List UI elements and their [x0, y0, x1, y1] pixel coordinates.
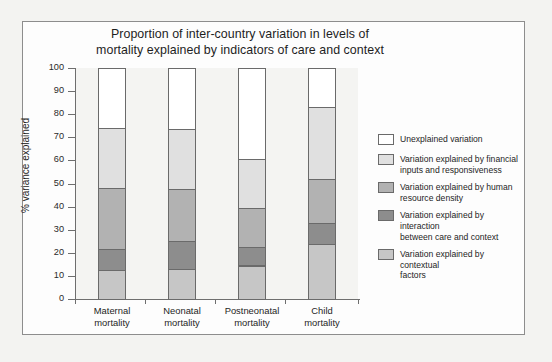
legend-item-label-line: resource density	[400, 193, 523, 204]
y-axis-title: % variance explained	[20, 96, 31, 236]
bar-segment[interactable]	[238, 68, 266, 160]
legend-item-label: Unexplained variation	[400, 134, 523, 145]
legend-item-label: Variation explained by financialinputs a…	[400, 154, 523, 175]
chart-title-line-2: mortality explained by indicators of car…	[40, 43, 440, 59]
bar-stack[interactable]	[98, 68, 126, 299]
y-axis-tick-mark	[68, 68, 76, 69]
x-axis-tick-mark	[145, 299, 146, 304]
legend-item-label: Variation explained by humanresource den…	[400, 182, 523, 203]
legend-item[interactable]: Variation explained by interactionbetwee…	[378, 210, 523, 242]
bar-segment[interactable]	[308, 179, 336, 224]
y-axis-tick-label: 20	[36, 247, 64, 257]
bar-segment[interactable]	[238, 159, 266, 209]
legend-item[interactable]: Variation explained by financialinputs a…	[378, 154, 523, 175]
bar-segment[interactable]	[98, 270, 126, 300]
y-axis-tick-mark	[68, 230, 76, 231]
legend-item-label-line: inputs and responsiveness	[400, 165, 523, 176]
figure-root: Proportion of inter-country variation in…	[0, 0, 552, 362]
chart-title: Proportion of inter-country variation in…	[40, 27, 440, 58]
y-axis-tick-label: 0	[36, 293, 64, 303]
y-axis-tick-label: 10	[36, 270, 64, 280]
y-axis-tick-mark	[68, 207, 76, 208]
bar-segment[interactable]	[168, 129, 196, 190]
x-axis-category-label: Childmortality	[277, 305, 367, 328]
bar-segment[interactable]	[98, 128, 126, 189]
y-axis-tick-label: 30	[36, 224, 64, 234]
legend-item-label-line: factors	[400, 270, 523, 281]
x-axis-tick-mark	[75, 299, 76, 304]
y-axis-tick-label: 60	[36, 154, 64, 164]
bar-segment[interactable]	[238, 266, 266, 300]
y-axis-tick-label: 90	[36, 85, 64, 95]
bar-segment[interactable]	[238, 208, 266, 248]
legend-item-label-line: Variation explained by financial	[400, 154, 523, 165]
bar-segment[interactable]	[308, 244, 336, 300]
y-axis-tick-mark	[68, 184, 76, 185]
bar-stack[interactable]	[238, 68, 266, 299]
legend-color-swatch	[378, 249, 394, 260]
legend-item-label-line: between care and context	[400, 232, 523, 243]
x-axis-category-label-line: mortality	[277, 317, 367, 329]
y-axis-tick-label: 80	[36, 108, 64, 118]
y-axis-tick-mark	[68, 253, 76, 254]
y-axis-tick-label: 50	[36, 178, 64, 188]
y-axis-tick-label: 100	[36, 62, 64, 72]
bar-segment[interactable]	[238, 247, 266, 266]
bar-stack[interactable]	[168, 68, 196, 299]
bar-segment[interactable]	[168, 189, 196, 242]
chart-legend: Unexplained variationVariation explained…	[378, 134, 523, 288]
bar-segment[interactable]	[168, 68, 196, 130]
bar-segment[interactable]	[98, 188, 126, 250]
x-axis-tick-mark	[358, 299, 359, 304]
legend-item-label: Variation explained by interactionbetwee…	[400, 210, 523, 242]
bar-segment[interactable]	[168, 269, 196, 300]
legend-item-label: Variation explained by contextualfactors	[400, 249, 523, 281]
bar-segment[interactable]	[168, 241, 196, 270]
legend-item[interactable]: Unexplained variation	[378, 134, 523, 147]
bar-segment[interactable]	[98, 68, 126, 129]
bar-segment[interactable]	[308, 223, 336, 245]
legend-color-swatch	[378, 210, 394, 221]
bar-segment[interactable]	[98, 249, 126, 271]
legend-item-label-line: Variation explained by interaction	[400, 210, 523, 231]
bar-segment[interactable]	[308, 68, 336, 108]
legend-item-label-line: Unexplained variation	[400, 134, 523, 145]
y-axis-tick-label: 40	[36, 201, 64, 211]
y-axis-tick-label: 70	[36, 131, 64, 141]
bar-segment[interactable]	[308, 107, 336, 180]
x-axis-category-label-line: Child	[277, 305, 367, 317]
bar-stack[interactable]	[308, 68, 336, 299]
legend-item[interactable]: Variation explained by humanresource den…	[378, 182, 523, 203]
y-axis-tick-mark	[68, 137, 76, 138]
legend-color-swatch	[378, 134, 394, 145]
legend-color-swatch	[378, 154, 394, 165]
legend-item[interactable]: Variation explained by contextualfactors	[378, 249, 523, 281]
y-axis-tick-mark	[68, 114, 76, 115]
legend-color-swatch	[378, 182, 394, 193]
y-axis-tick-mark	[68, 91, 76, 92]
y-axis-tick-mark	[68, 276, 76, 277]
legend-item-label-line: Variation explained by human	[400, 182, 523, 193]
x-axis-tick-mark	[285, 299, 286, 304]
legend-item-label-line: Variation explained by contextual	[400, 249, 523, 270]
y-axis-tick-mark	[68, 160, 76, 161]
x-axis-tick-mark	[215, 299, 216, 304]
chart-title-line-1: Proportion of inter-country variation in…	[40, 27, 440, 43]
